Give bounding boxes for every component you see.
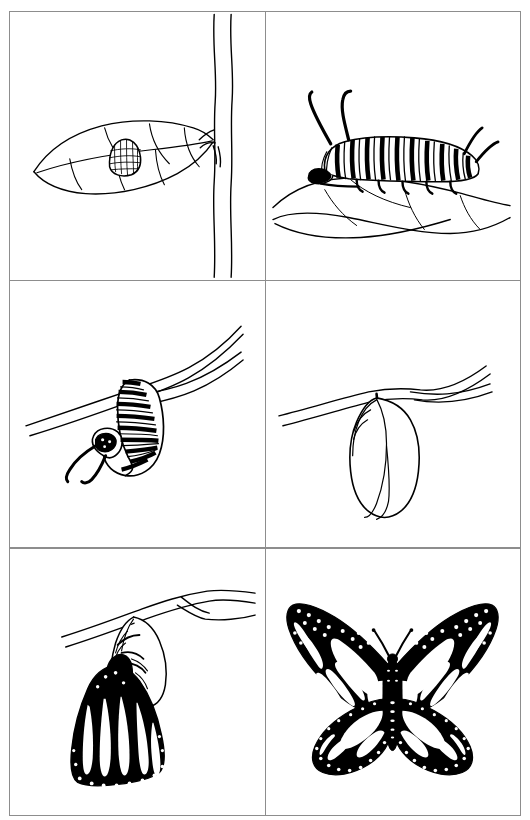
caterpillar [308,137,479,184]
emerging-butterfly-drawing [10,547,265,815]
chrysalis-drawing [265,280,520,548]
left-hindwing [312,699,392,775]
panel-adult-butterfly: Fully formed monarch butterfly with open… [265,547,520,815]
panel-chrysalis: Chrysalis suspended from a twig [265,280,520,548]
monarch-butterfly [287,604,498,775]
caterpillar-on-leaf-drawing [265,12,520,280]
antenna-clubs [372,628,414,632]
life-cycle-figure: Egg on milkweed leaf [9,11,521,816]
egg-on-leaf-drawing [10,12,265,280]
panel-caterpillar: Striped caterpillar feeding on leaf [265,12,520,280]
panel-emergence: Adult butterfly emerging from the split … [10,547,265,815]
leaf-petiole [199,130,220,167]
body [385,654,401,751]
j-hanging-caterpillar-drawing [10,280,265,548]
leaf [273,178,510,238]
chrysalis [350,398,419,520]
head-tentacles [309,91,350,144]
panel-egg: Egg on milkweed leaf [10,12,265,280]
figure-page: Egg on milkweed leaf [0,0,530,820]
panel-j-hang: Caterpillar hanging in a J shape from a … [10,280,265,548]
panel-grid: Egg on milkweed leaf [10,12,520,815]
right-hindwing [392,699,472,775]
egg [109,139,140,176]
plant-stem [214,14,233,277]
adult-monarch-drawing [265,547,520,815]
antennae [375,631,411,657]
